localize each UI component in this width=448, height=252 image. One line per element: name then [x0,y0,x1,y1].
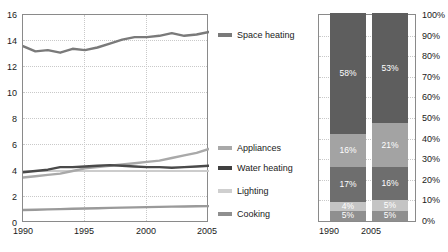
line-plot-area [22,14,208,222]
line-ytick-14: 14 [0,37,17,46]
bar-ytick-30: 30% [422,155,448,164]
bar-ytick-60: 60% [422,93,448,102]
bar-column-2005: 53% 21% 16% 5% 5% [372,13,408,221]
legend-swatch-lighting [218,189,232,193]
bar-segment-appliances-1990: 16% [330,134,366,167]
bar-label-cooking-2005: 5% [384,211,396,220]
line-ytick-16: 16 [0,11,17,20]
legend-swatch-water-heating [218,166,232,170]
legend-item-water-heating: Water heating [218,163,293,173]
line-chart-panel: 16 14 12 10 8 6 4 2 0 1990 1995 2000 200… [0,0,310,252]
legend-label-lighting: Lighting [237,186,269,196]
legend-swatch-cooking [218,212,232,216]
line-ytick-12: 12 [0,63,17,72]
legend-label-space-heating: Space heating [237,30,295,40]
legend-item-lighting: Lighting [218,186,269,196]
bar-segment-cooking-1990: 5% [330,211,366,221]
bar-segment-space-heating-2005: 53% [372,13,408,123]
bar-ytick-90: 90% [422,32,448,41]
line-ytick-6: 6 [0,141,17,150]
legend-item-cooking: Cooking [218,209,270,219]
bar-ytick-0: 0% [422,217,448,226]
line-series-appliances [23,149,209,178]
line-series-svg [23,15,209,223]
bar-segment-water-heating-1990: 17% [330,167,366,202]
bar-label-water-heating-1990: 17% [339,180,356,189]
bar-label-space-heating-2005: 53% [381,64,398,73]
bar-ytick-10: 10% [422,196,448,205]
bar-segment-space-heating-1990: 58% [330,13,366,134]
bar-segment-appliances-2005: 21% [372,123,408,167]
bar-plot-area: 58% 16% 17% 4% 5% 53% 21% 16% [318,14,416,222]
bar-label-water-heating-2005: 16% [381,179,398,188]
stacked-bar-panel: 58% 16% 17% 4% 5% 53% 21% 16% [312,0,448,252]
bar-segment-water-heating-2005: 16% [372,167,408,200]
bar-ytick-40: 40% [422,135,448,144]
bar-ytick-20: 20% [422,176,448,185]
bar-label-lighting-2005: 5% [384,201,396,210]
legend-swatch-space-heating [218,33,232,37]
bar-label-appliances-1990: 16% [339,146,356,155]
line-xtick-1990: 1990 [3,226,43,236]
bar-label-cooking-1990: 5% [342,211,354,220]
line-ytick-8: 8 [0,115,17,124]
bar-label-appliances-2005: 21% [381,141,398,150]
bar-ytick-70: 70% [422,73,448,82]
bar-xtick-2005: 2005 [349,226,393,236]
line-ytick-10: 10 [0,89,17,98]
bar-column-1990: 58% 16% 17% 4% 5% [330,13,366,221]
line-xtick-1995: 1995 [64,226,104,236]
bar-ytick-100: 100% [422,11,448,20]
legend-item-space-heating: Space heating [218,30,295,40]
legend-swatch-appliances [218,146,232,150]
chart-legend: Space heating Appliances Water heating L… [218,0,310,252]
legend-item-appliances: Appliances [218,143,281,153]
bar-xtick-1990: 1990 [307,226,351,236]
bar-segment-lighting-2005: 5% [372,200,408,210]
bar-label-space-heating-1990: 58% [339,69,356,78]
bar-ytick-50: 50% [422,114,448,123]
line-series-cooking [23,206,209,210]
line-ytick-4: 4 [0,167,17,176]
bar-ytick-80: 80% [422,52,448,61]
line-xtick-2000: 2000 [126,226,166,236]
legend-label-appliances: Appliances [237,143,281,153]
legend-label-water-heating: Water heating [237,163,293,173]
line-series-space-heating [23,32,209,53]
legend-label-cooking: Cooking [237,209,270,219]
bar-segment-cooking-2005: 5% [372,211,408,221]
line-ytick-2: 2 [0,193,17,202]
